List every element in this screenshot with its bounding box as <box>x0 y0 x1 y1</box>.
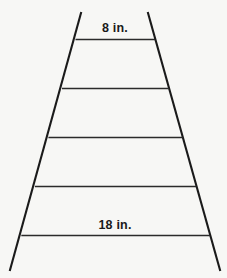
left-rail-line <box>10 13 81 270</box>
right-rail-line <box>148 13 220 270</box>
bottom-width-label: 18 in. <box>98 219 131 232</box>
ladder-drawing <box>0 0 227 278</box>
ladder-figure: 8 in. 18 in. <box>0 0 227 278</box>
top-width-label: 8 in. <box>102 22 128 35</box>
